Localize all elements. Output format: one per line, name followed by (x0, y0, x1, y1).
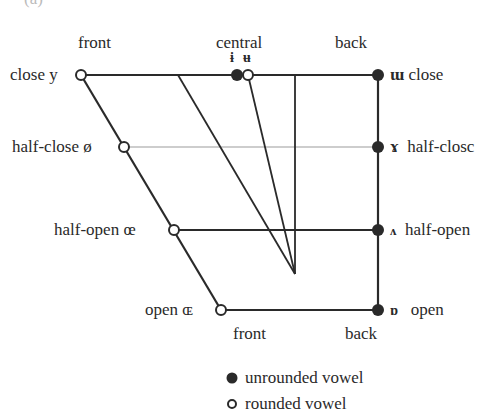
unrounded-marker-close-back (372, 69, 384, 81)
converging-line-1 (178, 75, 295, 274)
left-label-half-open: half-open œ (54, 221, 136, 238)
rounded-marker-oe (169, 225, 179, 235)
symbol-central-rounded: ʉ (243, 51, 251, 65)
column-label-back-top: back (335, 34, 367, 51)
left-label-open: open ɶ (145, 301, 193, 318)
legend-filled-marker (227, 373, 238, 384)
left-label-half-close: half-close ø (12, 138, 92, 155)
right-label-half-close: ɤ half-closc (390, 138, 474, 155)
unrounded-marker-half-open-back (372, 224, 384, 236)
legend-unrounded: unrounded vowel (245, 369, 364, 386)
legend-rounded: rounded vowel (245, 395, 347, 412)
front-edge (81, 75, 221, 310)
rounded-marker-y (76, 70, 86, 80)
right-label-open: ɒ open (390, 301, 444, 318)
column-label-central: central (216, 34, 262, 51)
rounded-marker-o-slash (119, 142, 129, 152)
panel-label: (a) (24, 0, 43, 7)
rounded-marker-OE (216, 305, 226, 315)
right-label-half-open: ʌ half-open (390, 221, 470, 238)
unrounded-marker-central (231, 69, 243, 81)
column-label-back-bottom: back (345, 325, 377, 342)
unrounded-marker-open-back (372, 304, 384, 316)
legend-open-marker (228, 400, 236, 408)
unrounded-marker-half-close-back (372, 141, 384, 153)
rounded-marker-central (243, 70, 253, 80)
right-label-close: ɯ close (390, 66, 443, 83)
converging-line-2 (248, 75, 295, 274)
column-label-front-bottom: front (233, 325, 266, 342)
column-label-front-top: front (78, 34, 111, 51)
left-label-close: close y (10, 66, 58, 83)
symbol-central-unrounded: ɨ (230, 51, 234, 65)
